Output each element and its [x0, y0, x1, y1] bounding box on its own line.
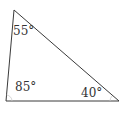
angle-arc-bottom-right: [110, 96, 112, 101]
angle-label-bottom-left: 85°: [15, 80, 36, 94]
angle-arc-bottom-left: [7, 95, 13, 101]
angle-label-top: 55°: [13, 24, 34, 38]
angle-label-bottom-right: 40°: [81, 86, 102, 100]
triangle-diagram: 55° 85° 40°: [0, 0, 130, 116]
